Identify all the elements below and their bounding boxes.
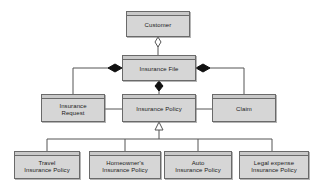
class-node-auto-insurance-policy[interactable]: Auto Insurance Policy (164, 151, 232, 179)
class-node-label: Legal expense Insurance Policy (241, 156, 307, 178)
filled-diamond-marker (108, 64, 122, 72)
class-node-insurance-policy[interactable]: Insurance Policy (122, 94, 196, 122)
connector-customer-insurance-file (155, 37, 161, 55)
class-node-label: Insurance File (124, 60, 194, 80)
class-node-travel-insurance-policy[interactable]: Travel Insurance Policy (14, 151, 80, 179)
connector-insurance-file-claim (196, 64, 244, 94)
class-node-claim[interactable]: Claim (212, 94, 276, 122)
filled-diamond-marker (196, 64, 210, 72)
class-node-legal-expense-insurance-policy[interactable]: Legal expense Insurance Policy (239, 151, 309, 179)
class-node-label: Homeowner's Insurance Policy (91, 156, 159, 178)
class-node-customer[interactable]: Customer (126, 11, 190, 37)
class-node-homeowners-insurance-policy[interactable]: Homeowner's Insurance Policy (89, 151, 161, 179)
uml-class-diagram-canvas: Customer Insurance File Insurance Reques… (0, 0, 322, 189)
class-node-label: Auto Insurance Policy (166, 156, 230, 178)
class-node-insurance-request[interactable]: Insurance Request (41, 94, 105, 122)
connector-generalization-tree (47, 122, 272, 151)
class-node-label: Customer (128, 16, 188, 36)
class-node-label: Travel Insurance Policy (16, 156, 78, 178)
class-node-label: Insurance Request (43, 99, 103, 121)
class-node-label: Insurance Policy (124, 99, 194, 121)
filled-diamond-marker (155, 81, 163, 91)
class-node-label: Claim (214, 99, 274, 121)
hollow-diamond-marker (155, 37, 161, 47)
connector-insurance-file-insurance-policy (155, 81, 163, 94)
hollow-triangle-marker (155, 122, 163, 130)
class-node-insurance-file[interactable]: Insurance File (122, 55, 196, 81)
connector-insurance-file-insurance-request (73, 64, 122, 94)
